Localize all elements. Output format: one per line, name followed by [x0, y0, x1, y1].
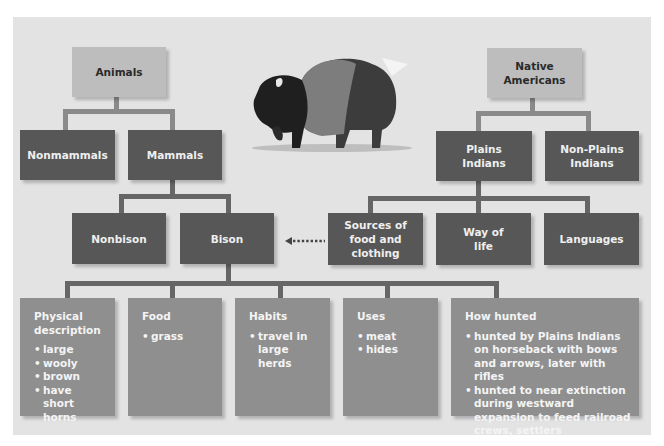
detail-list: grass — [142, 330, 212, 344]
connector — [65, 281, 70, 299]
node-label: Nonbison — [91, 232, 147, 246]
detail-list: meat hides — [357, 330, 428, 357]
detail-physical-description: Physical description large wooly brown h… — [20, 298, 115, 416]
detail-item: hunted by Plains Indians on horseback wi… — [465, 330, 633, 384]
connector — [226, 263, 231, 283]
node-plains-indians: Plains Indians — [436, 131, 532, 181]
bison-illustration — [232, 50, 417, 155]
detail-list: hunted by Plains Indians on horseback wi… — [465, 330, 633, 438]
connector — [119, 194, 231, 199]
connector — [63, 109, 175, 114]
detail-item: brown — [34, 370, 105, 384]
node-label: Plains Indians — [462, 142, 506, 170]
dotted-arrow-icon — [285, 237, 325, 245]
connector — [476, 111, 591, 116]
node-label: Bison — [211, 232, 244, 246]
node-languages: Languages — [544, 213, 639, 265]
connector — [278, 281, 283, 299]
node-native-americans: Native Americans — [487, 48, 582, 98]
connector — [530, 98, 535, 112]
detail-title: Physical description — [34, 310, 105, 337]
node-label: Non-Plains Indians — [559, 142, 625, 170]
node-non-plains-indians: Non-Plains Indians — [545, 131, 639, 181]
detail-title: Food — [142, 310, 212, 324]
connector — [170, 281, 175, 299]
node-nonbison: Nonbison — [72, 213, 166, 264]
detail-food: Food grass — [128, 298, 222, 416]
detail-item: wooly — [34, 357, 105, 371]
node-animals: Animals — [72, 47, 166, 97]
node-label: Native Americans — [501, 59, 568, 87]
connector — [63, 109, 68, 131]
node-label: Languages — [559, 232, 623, 246]
connector — [476, 111, 481, 132]
node-label: Sources of food and clothing — [338, 218, 413, 260]
detail-item: grass — [142, 330, 212, 344]
connector — [170, 109, 175, 131]
detail-item: hides — [357, 343, 428, 357]
node-bison: Bison — [180, 213, 274, 264]
connector — [494, 281, 499, 299]
connector — [385, 281, 390, 299]
detail-how-hunted: How hunted hunted by Plains Indians on h… — [451, 298, 639, 416]
detail-item: travel in large herds — [249, 330, 308, 371]
connector — [586, 111, 591, 132]
detail-habits: Habits travel in large herds — [235, 298, 330, 416]
node-label: Way of life — [462, 225, 505, 253]
node-mammals: Mammals — [128, 130, 222, 180]
node-label: Mammals — [147, 148, 203, 162]
detail-item: hunted to near extinction during westwar… — [465, 384, 633, 438]
detail-title: Habits — [249, 310, 308, 324]
connector — [226, 194, 231, 214]
node-nonmammals: Nonmammals — [20, 130, 115, 180]
detail-title: How hunted — [465, 310, 633, 324]
connector — [368, 196, 590, 201]
node-label: Nonmammals — [27, 148, 107, 162]
detail-list: large wooly brown have short horns — [34, 343, 105, 424]
node-way-of-life: Way of life — [436, 213, 531, 265]
connector — [170, 180, 175, 195]
detail-uses: Uses meat hides — [343, 298, 438, 416]
detail-list: travel in large herds — [249, 330, 308, 371]
connector — [119, 194, 124, 214]
detail-item: large — [34, 343, 105, 357]
connector — [585, 196, 590, 214]
detail-title: Uses — [357, 310, 428, 324]
connector — [368, 196, 373, 214]
detail-item: meat — [357, 330, 428, 344]
node-sources-of-food-and-clothing: Sources of food and clothing — [328, 213, 423, 265]
detail-item: have short horns — [34, 384, 105, 425]
node-label: Animals — [95, 65, 142, 79]
